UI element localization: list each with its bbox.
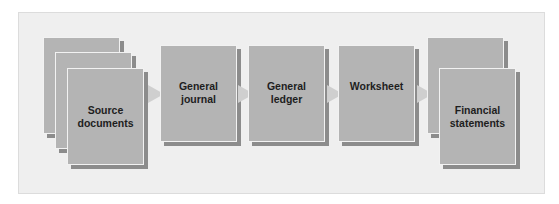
statements-label-1: Financial bbox=[440, 104, 515, 117]
ledger-label-1: General bbox=[249, 80, 324, 93]
source-label-1: Source bbox=[68, 104, 143, 117]
journal-label-1: General bbox=[161, 80, 236, 93]
worksheet-label-1: Worksheet bbox=[339, 80, 414, 93]
source-page-front: Source documents bbox=[67, 68, 144, 165]
journal-label-2: journal bbox=[161, 93, 236, 106]
statements-page-front: Financial statements bbox=[439, 68, 516, 165]
general-ledger-node: General ledger bbox=[248, 45, 325, 142]
statements-label-2: statements bbox=[440, 117, 515, 130]
worksheet-node: Worksheet bbox=[338, 45, 415, 142]
general-journal-node: General journal bbox=[160, 45, 237, 142]
source-label-2: documents bbox=[68, 117, 143, 130]
ledger-label-2: ledger bbox=[249, 93, 324, 106]
